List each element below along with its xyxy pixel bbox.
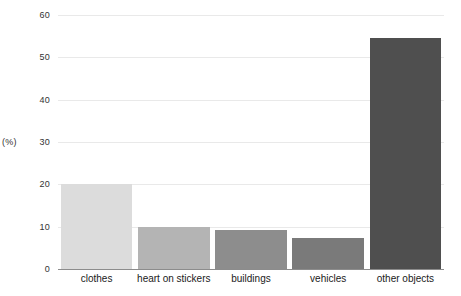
y-tick-label: 60 [10, 11, 50, 20]
bar-series [58, 15, 444, 269]
bar [61, 184, 132, 269]
x-axis-labels: clothesheart on stickersbuildingsvehicle… [58, 272, 444, 292]
y-tick-label: 20 [10, 180, 50, 189]
bar [370, 38, 441, 269]
y-axis-ticks: 0102030405060 [0, 15, 50, 269]
y-tick-label: 30 [10, 138, 50, 147]
x-tick-label: other objects [367, 272, 444, 286]
bar [215, 230, 286, 269]
plot-area [58, 15, 444, 269]
x-tick-label: heart on stickers [135, 272, 212, 286]
y-tick-label: 40 [10, 96, 50, 105]
bar-chart: (%) 0102030405060 clothesheart on sticke… [0, 0, 461, 296]
x-tick-label: vehicles [290, 272, 367, 286]
x-tick-label: clothes [58, 272, 135, 286]
y-tick-label: 0 [10, 265, 50, 274]
y-tick-label: 10 [10, 223, 50, 232]
x-axis-line [58, 269, 444, 270]
y-tick-label: 50 [10, 53, 50, 62]
bar [138, 227, 209, 269]
bar [292, 238, 363, 269]
x-tick-label: buildings [212, 272, 289, 286]
